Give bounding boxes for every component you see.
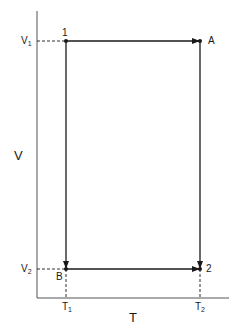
diagram-canvas — [0, 0, 241, 329]
point-A-label: A — [208, 36, 215, 46]
x-tick-t2: T2 — [195, 302, 205, 313]
point-2-label: 2 — [206, 264, 212, 274]
y-tick-v1: V1 — [21, 36, 32, 47]
y-axis-label: V — [14, 149, 23, 162]
point-2 — [198, 267, 202, 271]
y-tick-v2: V2 — [21, 264, 32, 275]
point-B-label: B — [56, 272, 63, 282]
point-1-label: 1 — [62, 28, 68, 38]
x-axis-label: T — [129, 311, 137, 324]
point-1 — [64, 39, 68, 43]
point-B — [64, 267, 68, 271]
point-A — [198, 39, 202, 43]
x-tick-t1: T1 — [62, 302, 72, 313]
